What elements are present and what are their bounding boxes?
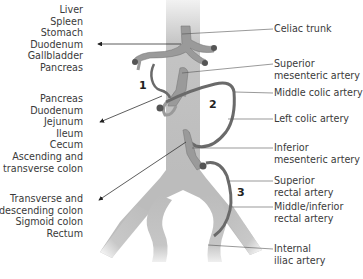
label-line: Superior <box>274 58 360 70</box>
organ-label: Rectum <box>0 228 83 240</box>
label-line: mesenteric artery <box>274 70 360 82</box>
organ-label: descending colon <box>0 205 83 217</box>
midgut-organ-list: Pancreas Duodenum Jejunum Ileum Cecum As… <box>3 93 83 174</box>
organ-label: Gallbladder <box>28 50 83 62</box>
organ-label: Duodenum <box>28 39 83 51</box>
foregut-organ-list: Liver Spleen Stomach Duodenum Gallbladde… <box>28 4 83 74</box>
organ-label: Ascending and <box>3 151 83 163</box>
label-line: Superior <box>274 175 333 187</box>
organ-label: Pancreas <box>3 93 83 105</box>
label-line: Internal <box>274 243 325 255</box>
arrow-midgut <box>100 96 162 122</box>
organ-label: Transverse and <box>0 193 83 205</box>
label-celiac-trunk: Celiac trunk <box>274 23 332 35</box>
label-line: mesenteric artery <box>274 154 360 166</box>
organ-label: Pancreas <box>28 62 83 74</box>
organ-label: Cecum <box>3 139 83 151</box>
label-line: Middle colic artery <box>274 87 363 99</box>
organ-label: Ileum <box>3 128 83 140</box>
label-line: rectal artery <box>274 187 333 199</box>
label-middle-inferior-rectal-artery: Middle/inferior rectal artery <box>274 201 343 224</box>
label-line: Celiac trunk <box>274 23 332 35</box>
label-superior-mesenteric-artery: Superior mesenteric artery <box>274 58 360 81</box>
label-line: rectal artery <box>274 213 343 225</box>
hindgut-organ-list: Transverse and descending colon Sigmoid … <box>0 193 83 239</box>
organ-label: Liver <box>28 4 83 16</box>
label-middle-colic-artery: Middle colic artery <box>274 87 363 99</box>
aorta <box>100 0 262 262</box>
label-line: Left colic artery <box>274 113 349 125</box>
organ-label: Sigmoid colon <box>0 216 83 228</box>
label-line: iliac artery <box>274 255 325 267</box>
anastomosis-number-1: 1 <box>139 79 147 92</box>
organ-label: transverse colon <box>3 163 83 175</box>
label-line: Inferior <box>274 142 360 154</box>
organ-label: Duodenum <box>3 105 83 117</box>
anastomosis-number-2: 2 <box>209 98 217 111</box>
label-internal-iliac-artery: Internal iliac artery <box>274 243 325 266</box>
label-left-colic-artery: Left colic artery <box>274 113 349 125</box>
organ-label: Stomach <box>28 27 83 39</box>
label-line: Middle/inferior <box>274 201 343 213</box>
anastomosis-number-3: 3 <box>237 186 245 199</box>
organ-label: Spleen <box>28 16 83 28</box>
label-inferior-mesenteric-artery: Inferior mesenteric artery <box>274 142 360 165</box>
organ-label: Jejunum <box>3 116 83 128</box>
label-superior-rectal-artery: Superior rectal artery <box>274 175 333 198</box>
